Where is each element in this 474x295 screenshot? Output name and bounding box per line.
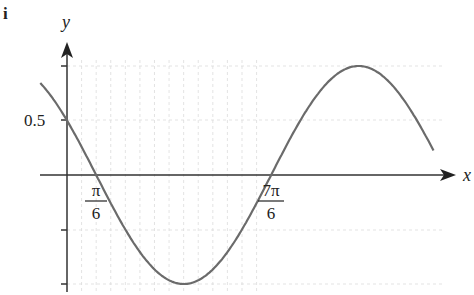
x-axis-label: x — [462, 165, 471, 185]
chart: i y x 0.5 π 6 7π 6 — [0, 0, 474, 295]
svg-text:7π: 7π — [262, 181, 280, 200]
x-tick-label-7pi-over-6: 7π 6 — [258, 181, 284, 223]
svg-text:6: 6 — [267, 204, 276, 223]
y-axis-label: y — [60, 12, 70, 32]
part-label: i — [3, 4, 8, 23]
svg-text:π: π — [92, 181, 101, 200]
grid — [67, 60, 445, 292]
axes — [40, 42, 456, 292]
svg-text:6: 6 — [92, 204, 101, 223]
y-tick-label-0.5: 0.5 — [24, 111, 45, 130]
